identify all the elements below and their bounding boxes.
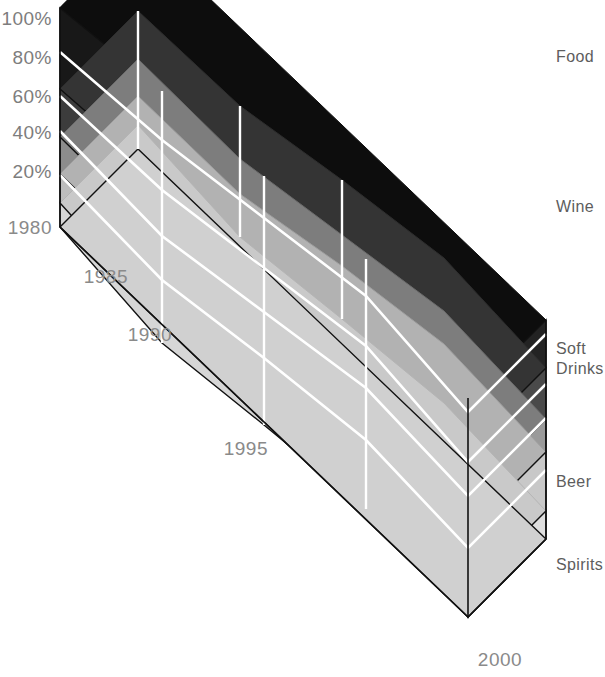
depth-tick-1995: 1995 bbox=[224, 438, 268, 459]
depth-tick-1985: 1985 bbox=[84, 266, 128, 287]
series-label-soft-drinks-line2: Drinks bbox=[556, 360, 604, 377]
y-tick-80: 80% bbox=[12, 47, 52, 68]
y-tick-100: 100% bbox=[1, 8, 52, 29]
series-label-wine: Wine bbox=[556, 198, 594, 215]
y-axis-labels: 100% 80% 60% 40% 20% bbox=[1, 8, 52, 182]
chart-geometry bbox=[60, 0, 546, 617]
y-tick-40: 40% bbox=[12, 122, 52, 143]
y-tick-20: 20% bbox=[12, 161, 52, 182]
series-label-beer: Beer bbox=[556, 473, 592, 490]
series-label-food: Food bbox=[556, 48, 594, 65]
series-label-soft-drinks-line1: Soft bbox=[556, 340, 586, 357]
depth-tick-1990: 1990 bbox=[128, 324, 172, 345]
three-d-stacked-area-chart: 100% 80% 60% 40% 20% 1980 1985 1990 1995… bbox=[0, 0, 605, 677]
chart-canvas: 100% 80% 60% 40% 20% 1980 1985 1990 1995… bbox=[0, 0, 605, 677]
y-tick-60: 60% bbox=[12, 86, 52, 107]
depth-tick-2000: 2000 bbox=[478, 649, 522, 670]
series-label-spirits: Spirits bbox=[556, 556, 603, 573]
depth-tick-1980: 1980 bbox=[8, 217, 52, 238]
series-labels: Food Wine Soft Drinks Beer Spirits bbox=[556, 48, 604, 573]
